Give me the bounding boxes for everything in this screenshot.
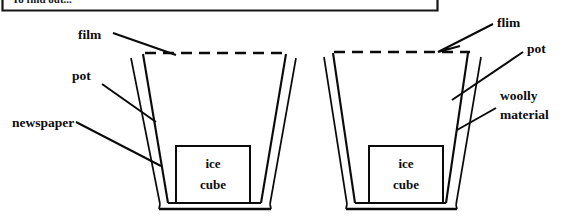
leader-flim-right [438,24,493,52]
label-flim-right: flim [497,15,521,30]
left-pot-group: ice cube [131,53,296,209]
left-ice-cube-box [176,146,250,203]
label-pot-right: pot [527,41,546,56]
leader-film-left [113,33,176,55]
label-newspaper-left: newspaper [12,115,74,130]
left-pot-base-join-right [270,204,271,209]
right-ice-cube-box [369,146,443,203]
label-woolly-right-line2: material [500,107,549,122]
right-ice-cube-label-line2: cube [393,177,419,192]
right-pot-outer-wall-right [456,57,481,205]
leader-woolly-right [457,108,496,130]
right-ice-cube-label-line1: ice [398,156,413,171]
leader-pot-left [102,84,156,122]
left-labels-group: film pot newspaper [12,27,176,166]
caption-box-text: To find out... [12,0,72,5]
right-labels-group: flim pot woolly material [438,15,549,130]
label-film-left: film [78,27,102,42]
right-pot-base-join-right [456,205,457,209]
right-pot-inner-wall-right [446,53,468,203]
caption-box: To find out... [3,0,438,11]
ice-cube-insulation-diagram: To find out... ice cube [0,0,565,218]
right-pot-base-join-left [346,204,347,209]
left-pot-base-join-left [159,204,160,209]
label-woolly-right-line1: woolly [500,88,538,103]
left-ice-cube-label-line2: cube [200,177,226,192]
figure-root: To find out... ice cube [0,0,565,218]
left-ice-cube-label-line1: ice [205,156,220,171]
label-pot-left: pot [72,68,91,83]
